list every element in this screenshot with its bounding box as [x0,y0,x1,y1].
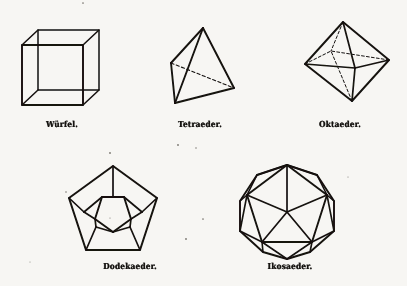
caption-wuerfel: Würfel. [14,119,110,129]
paper-background [0,0,407,286]
plate-page: Würfel. Tetraeder. Oktaeder. Dodekaeder.… [0,0,407,286]
platonic-solids-figure-plate [0,0,407,286]
caption-dodekaeder: Dodekaeder. [78,261,182,271]
caption-tetraeder: Tetraeder. [152,119,248,129]
caption-oktaeder: Oktaeder. [292,119,388,129]
caption-ikosaeder: Ikosaeder. [238,261,342,271]
